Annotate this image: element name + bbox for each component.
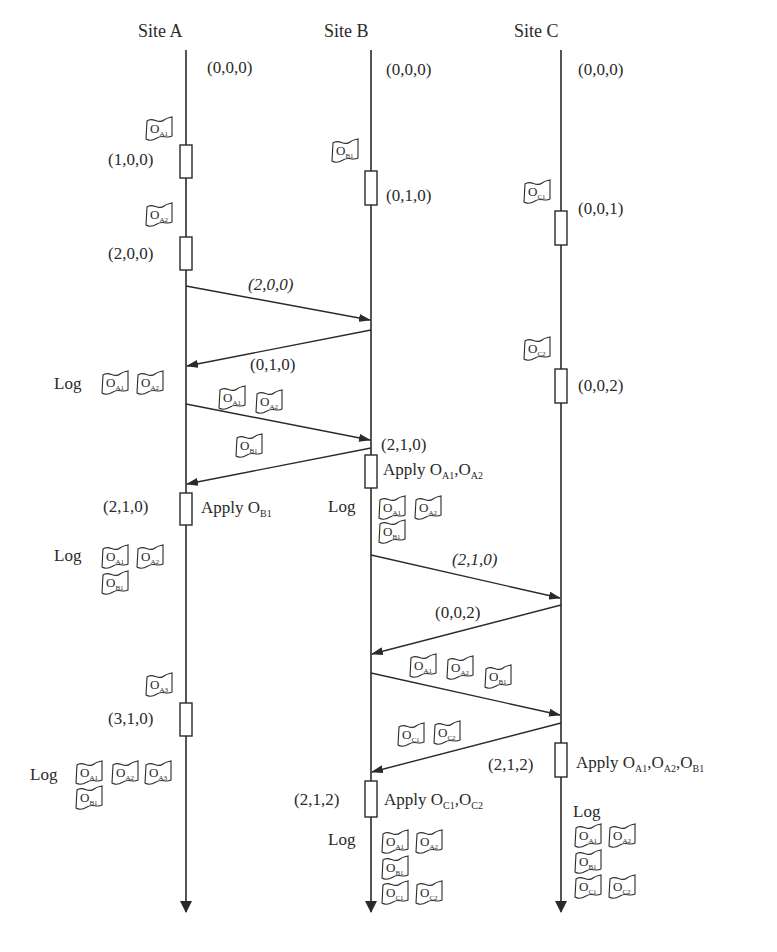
op-subscript: B1 <box>693 763 705 774</box>
operation-flag-icon: OC1 <box>380 880 410 907</box>
operation-flag-icon: OA2 <box>607 823 637 850</box>
operation-flag-icon: OA2 <box>144 202 174 229</box>
event-box <box>555 743 567 777</box>
event-box <box>555 211 567 245</box>
message-arrows <box>186 286 561 772</box>
operation-flag-icon: OA1 <box>408 653 438 680</box>
apply-label: Apply OA1,OA2 <box>383 461 483 478</box>
operation-label: OC1 <box>528 185 546 198</box>
event-box <box>365 171 377 205</box>
operation-flag-icon: OB1 <box>483 664 513 691</box>
operation-label: OA1 <box>383 501 401 514</box>
operation-label: OC2 <box>613 880 631 893</box>
operation-flag-icon: OA2 <box>135 370 165 397</box>
operation-label: OA1 <box>579 829 597 842</box>
operation-flag-icon: OA1 <box>573 823 603 850</box>
op-subscript: C2 <box>471 800 483 811</box>
operation-flag-icon: OC2 <box>432 720 462 747</box>
apply-op: ,O <box>455 790 472 809</box>
operation-flag-icon: OA2 <box>445 655 475 682</box>
vector-clock: (3,1,0) <box>108 710 153 727</box>
operation-flag-icon: OC2 <box>607 874 637 901</box>
causality-diagram: Site A Site B Site C (0,0,0)(0,0,0)(0,0,… <box>0 0 777 952</box>
operation-label: OA1 <box>106 376 124 389</box>
site-label-a: Site A <box>138 22 183 40</box>
operation-label: OA1 <box>386 835 404 848</box>
operation-flag-icon: OB1 <box>234 433 264 460</box>
operation-flag-icon: OA1 <box>100 370 130 397</box>
log-label: Log <box>30 766 57 783</box>
event-box <box>555 369 567 403</box>
log-label: Log <box>328 498 355 515</box>
event-box <box>365 455 377 488</box>
op-subscript: C1 <box>443 800 455 811</box>
operation-flag-icon: OA2 <box>110 760 140 787</box>
site-label-b: Site B <box>324 22 369 40</box>
apply-op: Apply O <box>383 460 442 479</box>
log-label: Log <box>328 831 355 848</box>
operation-flag-icon: OA2 <box>414 829 444 856</box>
operation-label: OA2 <box>116 766 134 779</box>
operation-label: OC2 <box>528 342 546 355</box>
operation-label: OC1 <box>386 886 404 899</box>
operation-flag-icon: OC2 <box>522 336 552 363</box>
operation-label: OC2 <box>438 726 456 739</box>
operation-flag-icon: OC1 <box>522 179 552 206</box>
event-boxes <box>180 145 567 817</box>
operation-label: OA3 <box>149 766 167 779</box>
event-box <box>365 781 377 817</box>
op-subscript: A1 <box>442 470 454 481</box>
operation-label: OA2 <box>613 829 631 842</box>
operation-label: OC1 <box>579 880 597 893</box>
operation-flag-icon: OA2 <box>413 495 443 522</box>
operation-flag-icon: OA1 <box>100 544 130 571</box>
operation-label: OA3 <box>150 678 168 691</box>
operation-flag-icon: OB1 <box>330 138 360 165</box>
operation-flag-icon: OC2 <box>414 880 444 907</box>
op-subscript: A1 <box>635 763 647 774</box>
operation-label: OC1 <box>402 728 420 741</box>
operation-label: OA1 <box>223 391 241 404</box>
operation-flag-icon: OB1 <box>377 519 407 546</box>
operation-flag-icon: OC1 <box>573 874 603 901</box>
log-label: Log <box>54 375 81 392</box>
apply-op: ,O <box>454 460 471 479</box>
operation-label: OA1 <box>80 766 98 779</box>
apply-op: Apply O <box>201 498 260 517</box>
operation-label: OB1 <box>80 791 98 804</box>
operation-label: OA2 <box>419 501 437 514</box>
apply-op: Apply O <box>576 753 635 772</box>
operation-label: OB1 <box>383 525 401 538</box>
event-box <box>180 237 192 270</box>
message-label: (0,0,2) <box>435 604 480 621</box>
event-box <box>180 145 192 178</box>
vector-clock: (0,0,0) <box>386 61 431 78</box>
apply-label: Apply OA1,OA2,OB1 <box>576 754 704 771</box>
operation-label: OC2 <box>420 886 438 899</box>
vector-clock: (0,1,0) <box>386 187 431 204</box>
message-label: (0,1,0) <box>250 356 295 373</box>
operation-flag-icon: OA1 <box>380 829 410 856</box>
apply-label: Apply OB1 <box>201 499 272 516</box>
operation-flag-icon: OA1 <box>217 385 247 412</box>
vector-clock: (0,0,1) <box>578 200 623 217</box>
log-label: Log <box>54 547 81 564</box>
apply-op: Apply O <box>384 790 443 809</box>
operation-flag-icon: OA1 <box>377 495 407 522</box>
operation-label: OA2 <box>420 835 438 848</box>
operation-label: OA2 <box>141 376 159 389</box>
operation-label: OB1 <box>336 144 354 157</box>
operation-flag-icon: OB1 <box>573 849 603 876</box>
apply-op: ,O <box>647 753 664 772</box>
vector-clock: (0,0,2) <box>578 377 623 394</box>
operation-label: OA1 <box>414 659 432 672</box>
operation-label: OB1 <box>579 855 597 868</box>
operation-flag-icon: OA2 <box>254 389 284 416</box>
vector-clock: (1,0,0) <box>108 151 153 168</box>
vector-clock: (2,0,0) <box>108 245 153 262</box>
op-subscript: B1 <box>260 508 272 519</box>
operation-label: OA2 <box>150 208 168 221</box>
vector-clock: (0,0,0) <box>578 61 623 78</box>
message-arrow <box>187 448 371 484</box>
message-label: (2,0,0) <box>248 276 293 293</box>
